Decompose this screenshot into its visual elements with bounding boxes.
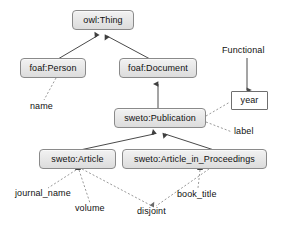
node-sweto-publication[interactable]: sweto:Publication bbox=[114, 108, 206, 128]
node-foaf-person-label: foaf:Person bbox=[29, 64, 76, 73]
node-foaf-document[interactable]: foaf:Document bbox=[119, 58, 197, 78]
edge-person-subclassof-thing bbox=[58, 36, 97, 59]
label-disjoint: disjoint bbox=[137, 207, 166, 216]
node-year[interactable]: year bbox=[231, 91, 268, 110]
edge-person-name-property bbox=[44, 78, 56, 100]
label-book-title: book_title bbox=[177, 190, 217, 199]
edge-article-in-proceedings-book-title-property bbox=[198, 170, 200, 188]
label-disjoint-text: disjoint bbox=[137, 206, 166, 216]
label-volume: volume bbox=[75, 204, 105, 213]
node-foaf-person[interactable]: foaf:Person bbox=[20, 58, 86, 78]
edge-article-subclassof-publication bbox=[80, 134, 154, 150]
label-name: name bbox=[30, 102, 53, 111]
label-name-text: name bbox=[30, 101, 53, 111]
edge-disjoint-article bbox=[82, 169, 152, 206]
node-sweto-article[interactable]: sweto:Article bbox=[39, 149, 116, 169]
edge-publication-year-property bbox=[206, 102, 230, 116]
label-journal-name-text: journal_name bbox=[15, 188, 71, 198]
label-functional: Functional bbox=[222, 46, 265, 55]
ontology-diagram: owl:Thing foaf:Person foaf:Document swet… bbox=[0, 0, 294, 226]
node-owl-thing-label: owl:Thing bbox=[83, 16, 122, 25]
edge-article-journal-name-property bbox=[48, 170, 76, 188]
edge-article-in-proceedings-subclassof-publication bbox=[165, 134, 214, 150]
node-sweto-article-in-proceedings[interactable]: sweto:Article_in_Proceedings bbox=[122, 149, 267, 169]
node-sweto-publication-label: sweto:Publication bbox=[124, 114, 196, 123]
label-functional-text: Functional bbox=[222, 45, 265, 55]
label-book-title-text: book_title bbox=[177, 189, 217, 199]
node-sweto-article-in-proceedings-label: sweto:Article_in_Proceedings bbox=[134, 155, 255, 164]
label-label: label bbox=[234, 127, 254, 136]
edge-article-volume-property bbox=[79, 170, 90, 203]
label-volume-text: volume bbox=[75, 203, 105, 213]
node-owl-thing[interactable]: owl:Thing bbox=[72, 10, 134, 30]
node-year-label: year bbox=[241, 96, 259, 105]
edge-publication-label-property bbox=[206, 122, 232, 132]
label-journal-name: journal_name bbox=[15, 189, 71, 198]
edge-disjoint-article-in-proceedings bbox=[156, 169, 209, 206]
label-label-text: label bbox=[234, 126, 254, 136]
node-foaf-document-label: foaf:Document bbox=[128, 64, 188, 73]
node-sweto-article-label: sweto:Article bbox=[51, 155, 103, 164]
edge-document-subclassof-thing bbox=[107, 36, 150, 59]
